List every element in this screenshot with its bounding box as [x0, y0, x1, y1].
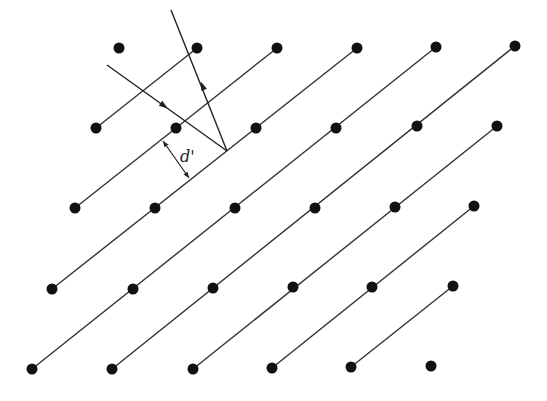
lattice-point	[331, 123, 342, 134]
spacing-label: d'	[180, 147, 195, 166]
lattice-point	[192, 43, 203, 54]
lattice-point	[352, 43, 363, 54]
lattice-point	[288, 282, 299, 293]
lattice-point	[510, 41, 521, 52]
lattice-point	[171, 123, 182, 134]
lattice-point	[390, 202, 401, 213]
lattice-point	[47, 284, 58, 295]
arrowhead-icon	[184, 172, 189, 178]
lattice-point	[367, 282, 378, 293]
arrowhead-icon	[159, 101, 168, 109]
lattice-plane-line	[96, 48, 197, 128]
lattice-point	[267, 363, 278, 374]
lattice-point	[91, 123, 102, 134]
lattice-point	[208, 283, 219, 294]
lattice-point	[107, 364, 118, 375]
lattice-point	[230, 203, 241, 214]
x-ray-paths	[107, 10, 227, 151]
lattice-point	[70, 203, 81, 214]
lattice-planes	[32, 46, 515, 369]
lattice-point	[114, 43, 125, 54]
lattice-point	[412, 121, 423, 132]
lattice-points	[27, 41, 521, 375]
lattice-point	[188, 364, 199, 375]
arrowhead-icon	[201, 81, 207, 90]
arrowhead-icon	[163, 141, 168, 147]
lattice-point	[150, 203, 161, 214]
lattice-diagram	[0, 0, 547, 401]
lattice-point	[492, 121, 503, 132]
lattice-point	[272, 43, 283, 54]
lattice-point	[27, 364, 38, 375]
lattice-point	[469, 201, 480, 212]
lattice-point	[426, 361, 437, 372]
lattice-point	[346, 362, 357, 373]
lattice-point	[448, 281, 459, 292]
lattice-plane-line	[351, 286, 453, 367]
lattice-plane-line	[52, 48, 357, 289]
lattice-point	[431, 42, 442, 53]
lattice-point	[310, 203, 321, 214]
lattice-point	[251, 123, 262, 134]
lattice-plane-line	[193, 126, 497, 369]
lattice-point	[128, 284, 139, 295]
